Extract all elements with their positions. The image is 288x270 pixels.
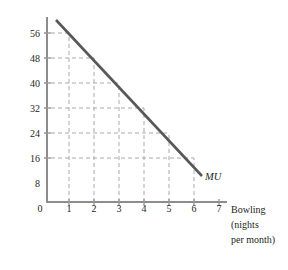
x-axis-title-line-3: per month) <box>231 234 275 246</box>
mu-curve <box>56 20 202 176</box>
x-tick-label-3: 3 <box>117 203 122 214</box>
y-tick-label-8: 8 <box>35 178 40 189</box>
x-tick-label-7: 7 <box>217 203 222 214</box>
x-tick-label-1: 1 <box>67 203 72 214</box>
x-axis-title: Bowling (nights per month) <box>231 204 275 246</box>
y-tick-label-32: 32 <box>30 103 40 114</box>
mu-series <box>56 20 202 176</box>
y-tick-label-48: 48 <box>30 53 40 64</box>
x-tick-label-4: 4 <box>142 203 147 214</box>
marginal-utility-chart: 56 48 40 32 24 16 8 0 1 2 3 4 5 6 7 Bowl… <box>0 0 288 270</box>
x-axis-labels: 1 2 3 4 5 6 7 <box>67 203 222 214</box>
y-axis-labels: 56 48 40 32 24 16 8 <box>30 28 40 189</box>
x-tick-label-2: 2 <box>92 203 97 214</box>
grid-guides <box>44 33 194 202</box>
x-axis-title-line-2: (nights <box>231 219 259 231</box>
chart-canvas: 56 48 40 32 24 16 8 0 1 2 3 4 5 6 7 Bowl… <box>0 0 288 270</box>
x-tick-label-6: 6 <box>192 203 197 214</box>
x-tick-label-5: 5 <box>167 203 172 214</box>
y-tick-label-24: 24 <box>30 128 40 139</box>
mu-curve-label: MU <box>204 171 223 182</box>
x-axis-title-line-1: Bowling <box>231 204 265 215</box>
y-tick-label-40: 40 <box>30 78 40 89</box>
origin-label: 0 <box>38 203 43 214</box>
y-tick-label-16: 16 <box>30 153 40 164</box>
y-tick-label-56: 56 <box>30 28 40 39</box>
